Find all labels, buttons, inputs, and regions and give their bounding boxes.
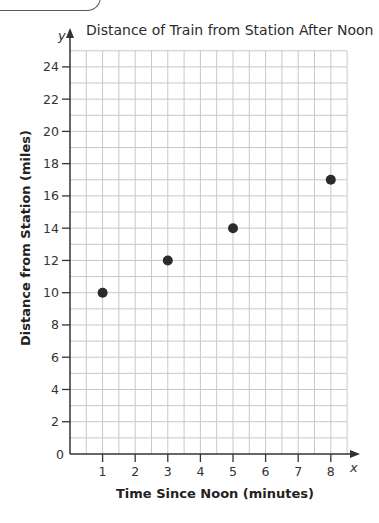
y-axis-label: Distance from Station (miles): [18, 130, 33, 346]
y-tick-label: 22: [43, 92, 59, 107]
scatter-chart: 12345678024681012141618202224 Distance o…: [0, 0, 379, 523]
y-tick-label: 16: [43, 188, 59, 203]
y-axis-arrow-icon: [66, 28, 74, 38]
y-tick-label: 0: [56, 447, 64, 462]
y-tick-label: 18: [43, 156, 59, 171]
x-tick-label: 2: [131, 464, 139, 479]
chart-title: Distance of Train from Station After Noo…: [86, 22, 373, 38]
y-tick-label: 20: [43, 124, 59, 139]
grid-lines: [70, 51, 347, 454]
y-tick-label: 4: [51, 382, 59, 397]
data-point: [228, 223, 238, 233]
y-tick-label: 12: [43, 253, 59, 268]
y-tick-label: 6: [51, 350, 59, 365]
y-axis-variable: y: [57, 28, 66, 43]
x-axis-arrow-icon: [350, 450, 360, 458]
data-point: [163, 255, 173, 265]
x-axis-variable: x: [349, 460, 358, 475]
tick-marks: 12345678024681012141618202224: [43, 59, 335, 479]
x-tick-label: 4: [196, 464, 204, 479]
x-tick-label: 5: [229, 464, 237, 479]
x-tick-label: 8: [327, 464, 335, 479]
y-tick-label: 24: [43, 59, 59, 74]
x-tick-label: 6: [262, 464, 270, 479]
data-point: [326, 175, 336, 185]
y-tick-label: 14: [43, 221, 59, 236]
x-tick-label: 1: [99, 464, 107, 479]
x-tick-label: 3: [164, 464, 172, 479]
x-tick-label: 7: [294, 464, 302, 479]
x-axis-label: Time Since Noon (minutes): [116, 486, 314, 501]
y-tick-label: 10: [43, 285, 59, 300]
axes: [66, 28, 360, 458]
y-tick-label: 2: [51, 414, 59, 429]
data-point: [98, 288, 108, 298]
y-tick-label: 8: [51, 317, 59, 332]
